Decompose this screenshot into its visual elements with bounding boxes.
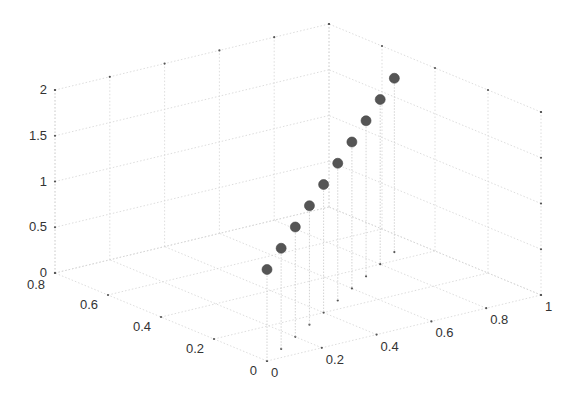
back-wall-grid-line bbox=[55, 161, 329, 227]
data-point bbox=[290, 222, 300, 232]
z-tick-mark bbox=[54, 180, 56, 182]
z-axis-tick-labels: 00.511.52 bbox=[29, 82, 47, 280]
x-axis-tick-labels: 00.20.40.60.81 bbox=[271, 299, 552, 380]
x-tick-mark bbox=[485, 307, 487, 309]
x-tick-label: 1 bbox=[545, 299, 552, 314]
data-point bbox=[333, 158, 343, 168]
z-tick-label: 1 bbox=[40, 174, 47, 189]
x-tick-mark bbox=[376, 334, 378, 336]
data-point bbox=[389, 73, 399, 83]
z-tick-mark bbox=[54, 272, 56, 274]
z-tick-mark bbox=[54, 135, 56, 137]
z-tick-label: 1.5 bbox=[29, 128, 47, 143]
z-tick-mark bbox=[540, 157, 542, 159]
top-tick bbox=[487, 89, 489, 91]
data-point bbox=[375, 95, 385, 105]
z-tick-mark bbox=[54, 226, 56, 228]
y-tick-mark bbox=[213, 338, 215, 340]
y-tick-label: 0.6 bbox=[80, 297, 98, 312]
top-tick bbox=[273, 36, 275, 38]
z-tick-label: 2 bbox=[40, 82, 47, 97]
y-tick-label: 0 bbox=[250, 363, 257, 378]
x-tick-label: 0.8 bbox=[490, 312, 508, 327]
z-tick-mark bbox=[54, 89, 56, 91]
scatter3d-plot: 00.511.52 00.20.40.60.8 00.20.40.60.81 bbox=[0, 0, 577, 394]
x-tick-mark bbox=[321, 347, 323, 349]
top-tick bbox=[328, 23, 330, 25]
back-wall-grid-line bbox=[55, 24, 329, 90]
y-tick-mark bbox=[107, 294, 109, 296]
y-tick-label: 0.4 bbox=[133, 319, 151, 334]
back-wall-grid-line bbox=[55, 70, 329, 136]
floor-grid-line bbox=[161, 251, 435, 317]
z-tick-label: 0.5 bbox=[29, 219, 47, 234]
grid-lines bbox=[54, 23, 542, 362]
y-tick-label: 0.2 bbox=[186, 341, 204, 356]
x-tick-label: 0.4 bbox=[381, 339, 399, 354]
z-tick-mark bbox=[540, 248, 542, 250]
x-tick-label: 0.2 bbox=[326, 352, 344, 367]
z-tick-mark bbox=[540, 111, 542, 113]
data-points bbox=[262, 73, 399, 274]
data-point bbox=[361, 116, 371, 126]
data-point bbox=[347, 137, 357, 147]
floor-grid-line bbox=[108, 229, 382, 295]
top-tick bbox=[164, 63, 166, 65]
y-tick-mark bbox=[160, 316, 162, 318]
y-axis-tick-labels: 00.20.40.60.8 bbox=[27, 277, 257, 378]
z-tick-mark bbox=[540, 202, 542, 204]
data-point bbox=[319, 180, 329, 190]
data-point bbox=[262, 265, 272, 275]
z-tick-mark bbox=[540, 294, 542, 296]
back-wall-grid-line bbox=[55, 116, 329, 182]
y-tick-label: 0.8 bbox=[27, 277, 45, 292]
top-tick bbox=[109, 76, 111, 78]
top-tick bbox=[434, 67, 436, 69]
x-tick-mark bbox=[430, 320, 432, 322]
data-point bbox=[276, 243, 286, 253]
stem-lines bbox=[267, 78, 394, 361]
top-tick bbox=[381, 45, 383, 47]
x-tick-label: 0 bbox=[271, 365, 278, 380]
back-wall-grid-line bbox=[55, 207, 329, 273]
top-tick bbox=[218, 49, 220, 51]
x-tick-label: 0.6 bbox=[435, 325, 453, 340]
data-point bbox=[304, 201, 314, 211]
floor-grid-line bbox=[267, 295, 541, 361]
